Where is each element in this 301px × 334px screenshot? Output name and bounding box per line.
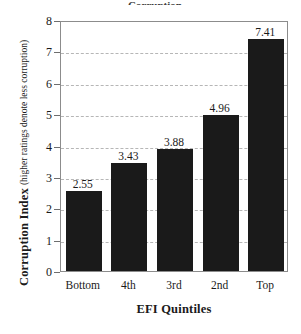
y-tick-label: 2 <box>12 203 52 215</box>
y-tick-mark <box>54 21 60 22</box>
y-tick-label: 4 <box>12 141 52 153</box>
x-axis-title: EFI Quintiles <box>60 302 288 317</box>
y-tick-label: 8 <box>12 15 52 27</box>
bar-chart-figure: Corruption Corruption Index (higher rati… <box>0 0 301 334</box>
y-tick-mark <box>54 52 60 53</box>
bar-2nd <box>203 115 239 271</box>
y-tick-label: 5 <box>12 109 52 121</box>
y-axis-title: Corruption Index (higher ratings denote … <box>7 38 41 288</box>
y-tick-mark <box>54 115 60 116</box>
y-tick-mark <box>54 84 60 85</box>
bar-value-label: 7.41 <box>235 26 295 38</box>
bar-3rd <box>157 149 193 271</box>
bar-value-label: 4.96 <box>190 102 250 114</box>
bar-bottom <box>66 191 102 271</box>
x-tick-label: Top <box>231 279 299 292</box>
y-tick-mark <box>54 241 60 242</box>
y-tick-label: 6 <box>12 78 52 90</box>
bar-value-label: 3.43 <box>98 150 158 162</box>
y-tick-mark <box>54 209 60 210</box>
y-tick-label: 7 <box>12 46 52 58</box>
y-tick-label: 0 <box>12 266 52 278</box>
bar-value-label: 3.88 <box>144 136 204 148</box>
y-tick-label: 1 <box>12 235 52 247</box>
bar-4th <box>111 163 147 271</box>
y-tick-mark <box>54 272 60 273</box>
bar-top <box>248 39 284 271</box>
bar-value-label: 2.55 <box>53 178 113 190</box>
y-tick-label: 3 <box>12 172 52 184</box>
cropped-title-sliver: Corruption <box>120 0 190 5</box>
y-tick-mark <box>54 147 60 148</box>
